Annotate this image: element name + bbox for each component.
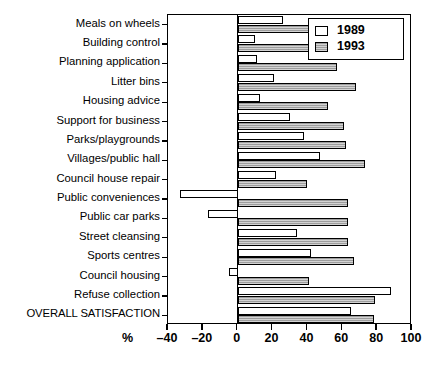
- bar-1993-council-house-repair: [238, 180, 308, 188]
- bar-1989-planning-application: [238, 55, 257, 63]
- y-axis-tick: [162, 257, 168, 258]
- bar-1993-villages-public-hall: [238, 160, 365, 168]
- bar-1989-building-control: [238, 35, 255, 43]
- x-axis-tick: [306, 324, 307, 330]
- bar-1993-public-car-parks: [238, 218, 348, 226]
- legend-item-1993: 1993: [315, 39, 399, 54]
- category-label: Meals on wheels: [0, 18, 160, 29]
- x-axis-tick: [166, 324, 167, 330]
- bar-1993-public-conveniences: [238, 199, 348, 207]
- y-axis-tick: [162, 121, 168, 122]
- bar-1989-support-for-business: [238, 113, 290, 121]
- category-label: Building control: [0, 37, 160, 48]
- category-label: Housing advice: [0, 95, 160, 106]
- category-label: Refuse collection: [0, 289, 160, 300]
- y-axis-tick: [162, 295, 168, 296]
- legend-swatch-1989: [315, 26, 328, 36]
- bar-1989-meals-on-wheels: [238, 16, 283, 24]
- bar-1993-street-cleansing: [238, 238, 348, 246]
- bar-1989-parks-playgrounds: [238, 132, 304, 140]
- bar-1989-overall-satisfaction: [238, 307, 351, 315]
- y-axis-tick: [162, 102, 168, 103]
- bar-1989-council-house-repair: [238, 171, 276, 179]
- y-axis-tick: [162, 63, 168, 64]
- bar-1993-planning-application: [238, 63, 337, 71]
- y-axis-tick: [162, 140, 168, 141]
- y-axis-tick: [162, 43, 168, 44]
- bar-1993-support-for-business: [238, 122, 344, 130]
- y-axis-tick: [162, 82, 168, 83]
- y-axis-tick: [162, 315, 168, 316]
- bar-1989-street-cleansing: [238, 229, 297, 237]
- plot-surface: [168, 15, 410, 323]
- x-axis-tick: [375, 324, 376, 330]
- bar-1993-parks-playgrounds: [238, 141, 346, 149]
- category-label: Litter bins: [0, 76, 160, 87]
- y-axis-tick: [162, 179, 168, 180]
- x-axis-unit-label: %: [122, 332, 133, 345]
- category-label: Villages/public hall: [0, 153, 160, 164]
- category-label: Street cleansing: [0, 231, 160, 242]
- category-axis-labels: Meals on wheelsBuilding controlPlanning …: [0, 14, 160, 324]
- plot-area: [167, 14, 411, 324]
- y-axis-tick: [162, 198, 168, 199]
- category-label: Parks/playgrounds: [0, 134, 160, 145]
- x-axis-tick: [201, 324, 202, 330]
- bar-1989-refuse-collection: [238, 287, 391, 295]
- category-label: Public car parks: [0, 211, 160, 222]
- legend-item-1989: 1989: [315, 23, 399, 38]
- legend-label-1989: 1989: [337, 24, 365, 37]
- bar-1993-refuse-collection: [238, 296, 376, 304]
- bar-1989-public-conveniences: [180, 190, 238, 198]
- bar-1989-litter-bins: [238, 74, 275, 82]
- category-label: OVERALL SATISFACTION: [0, 308, 160, 319]
- bar-1989-housing-advice: [238, 94, 261, 102]
- bar-1993-housing-advice: [238, 102, 329, 110]
- bar-1993-sports-centres: [238, 257, 355, 265]
- bar-1993-overall-satisfaction: [238, 315, 374, 323]
- y-axis-tick: [162, 276, 168, 277]
- category-label: Support for business: [0, 115, 160, 126]
- category-label: Planning application: [0, 56, 160, 67]
- y-axis-tick: [162, 237, 168, 238]
- bar-1989-villages-public-hall: [238, 152, 320, 160]
- x-axis-tick: [236, 324, 237, 330]
- x-axis-tick-label: 100: [388, 332, 426, 345]
- bar-1993-meals-on-wheels: [238, 25, 316, 33]
- y-axis-tick: [162, 24, 168, 25]
- category-label: Sports centres: [0, 250, 160, 261]
- chart-legend: 1989 1993: [308, 18, 404, 60]
- bar-1989-sports-centres: [238, 249, 311, 257]
- category-label: Public conveniences: [0, 192, 160, 203]
- category-label: Council house repair: [0, 173, 160, 184]
- x-axis-tick: [271, 324, 272, 330]
- legend-label-1993: 1993: [337, 40, 365, 53]
- bar-1989-public-car-parks: [208, 210, 238, 218]
- y-axis-tick: [162, 160, 168, 161]
- y-axis-tick: [162, 218, 168, 219]
- bar-1989-council-housing: [229, 268, 238, 276]
- x-axis-tick: [410, 324, 411, 330]
- legend-swatch-1993: [315, 42, 328, 52]
- x-axis-tick: [341, 324, 342, 330]
- bar-1993-council-housing: [238, 277, 309, 285]
- bar-1993-litter-bins: [238, 83, 357, 91]
- category-label: Council housing: [0, 270, 160, 281]
